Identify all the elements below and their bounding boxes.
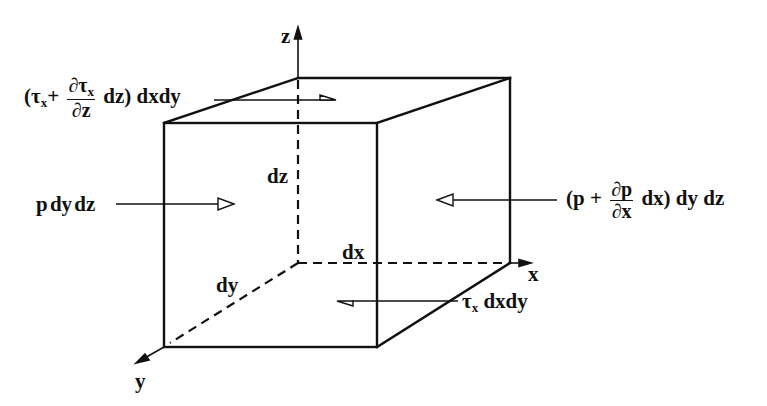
z-axis-arrowhead	[295, 27, 302, 39]
right-pressure-arrowhead-icon	[437, 194, 453, 206]
top-shear-fraction: ∂τx∂z	[67, 75, 95, 121]
x-axis-label: x	[528, 264, 539, 285]
fraction-numerator: ∂p	[610, 179, 633, 201]
dz-label: dz	[267, 166, 288, 187]
top-shear-plus: +	[47, 84, 64, 108]
right-pressure-prefix: (p +	[566, 186, 607, 210]
dy-label: dy	[216, 275, 238, 296]
bottom-shear-symbol: τ	[462, 289, 472, 313]
z-axis-label: z	[281, 26, 290, 47]
fraction-numerator-text: ∂τ	[68, 74, 87, 96]
cube-front-face	[164, 123, 377, 347]
left-pressure-label: p dy dz	[36, 194, 95, 215]
fraction-denominator: ∂z	[67, 100, 95, 121]
top-shear-suffix: dz) dxdy	[98, 84, 181, 108]
fraction-numerator-sub: x	[88, 84, 95, 99]
top-shear-label: (τx+ ∂τx∂z dz) dxdy	[24, 75, 181, 121]
fraction-denominator: ∂x	[610, 201, 633, 222]
right-pressure-fraction: ∂p∂x	[610, 179, 633, 222]
top-shear-prefix: (τ	[24, 84, 41, 108]
top-shear-arrowhead-icon	[320, 95, 336, 100]
fraction-numerator: ∂τx	[67, 75, 95, 100]
dx-label: dx	[342, 242, 364, 263]
left-pressure-arrowhead-icon	[218, 198, 234, 210]
right-pressure-suffix: dx) dy dz	[636, 186, 724, 210]
bottom-shear-label: τx dxdy	[462, 291, 528, 314]
y-axis-label: y	[135, 371, 146, 392]
right-pressure-label: (p + ∂p∂x dx) dy dz	[566, 179, 724, 222]
bottom-shear-suffix: dxdy	[478, 289, 528, 313]
bottom-shear-arrowhead-icon	[337, 301, 353, 306]
cube-top-right-edge	[377, 78, 510, 123]
y-axis-arrowhead	[136, 354, 149, 363]
